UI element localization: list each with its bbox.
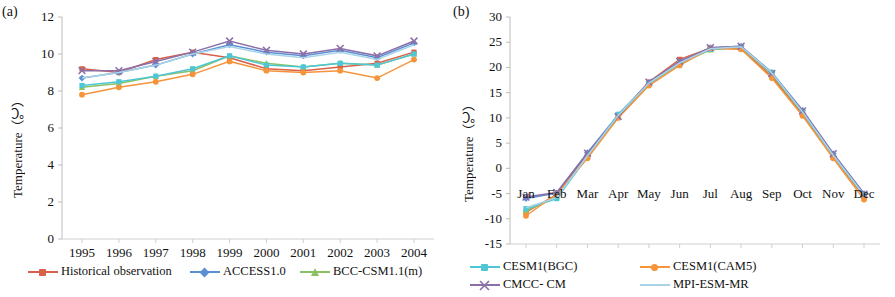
legend-swatch-triangle-icon [300, 266, 330, 278]
x-axis-tick-label: Oct [793, 186, 812, 202]
chart-panel-a: (a) Temperature（℃） 024681012199519961997… [0, 0, 447, 297]
chart-svg [62, 17, 434, 239]
legend-label: CESM1(CAM5) [673, 259, 756, 274]
y-axis-tick-label: 12 [41, 9, 54, 25]
y-axis-tick-label: 0 [48, 231, 55, 247]
series-mpi-esm-mr [82, 45, 414, 78]
x-axis-tick-label: 2003 [364, 245, 390, 261]
series-mpi-esm-mr [526, 47, 864, 208]
panel-a-label: (a) [2, 4, 18, 20]
data-point-square [153, 74, 158, 79]
y-axis-tick-label: 20 [489, 59, 502, 75]
x-axis-tick-label: 2000 [253, 245, 279, 261]
panel-a-y-axis-title: Temperature（℃） [8, 48, 27, 198]
panel-b-label: (b) [453, 4, 469, 20]
y-axis-tick-label: 5 [496, 135, 503, 151]
legend-label: CESM1(BGC) [503, 259, 577, 274]
legend-label: Historical observation [61, 264, 172, 279]
data-point-circle [523, 213, 529, 219]
x-axis-tick-label: Jan [517, 186, 534, 202]
data-point-square [411, 51, 416, 56]
panel-b-y-axis-title: Temperature（℃） [459, 42, 478, 202]
x-axis-tick-label: 2001 [290, 245, 316, 261]
x-axis-tick-label: Nov [822, 186, 844, 202]
y-axis-tick-label: -15 [485, 236, 502, 252]
legend-item[interactable]: CESM1(BGC) [470, 259, 577, 274]
x-axis-tick-label: 1996 [106, 245, 132, 261]
legend-swatch-none-icon [640, 279, 670, 291]
series-line [82, 45, 414, 78]
y-axis-tick-label: 25 [489, 34, 502, 50]
y-axis-tick-label: -10 [485, 211, 502, 227]
y-axis-tick-label: 4 [48, 157, 55, 173]
legend-swatch-x-icon [470, 279, 500, 291]
legend-item[interactable]: ACCESS1.0 [190, 264, 286, 279]
x-axis-tick-label: Apr [608, 186, 628, 202]
x-axis-tick-label: Jul [703, 186, 718, 202]
data-point-circle [264, 68, 270, 74]
data-point-square [375, 63, 380, 68]
data-point-circle [190, 71, 196, 77]
data-point-square [227, 53, 232, 58]
data-point-square [116, 79, 121, 84]
legend-item[interactable]: Historical observation [28, 264, 172, 279]
legend-item[interactable]: CESM1(CAM5) [640, 259, 756, 274]
x-axis-tick-label: Jun [671, 186, 689, 202]
panel-a-plot-area: 0246810121995199619971998199920002001200… [62, 17, 434, 239]
chart-panel-b: (b) Temperature（℃） -15-10-5051015202530J… [447, 0, 895, 297]
legend-swatch-circle-icon [640, 261, 670, 273]
y-axis-tick-label: 6 [48, 120, 55, 136]
data-point-square [79, 83, 84, 88]
data-point-circle [300, 70, 306, 76]
legend-item[interactable]: BCC-CSM1.1(m) [300, 264, 422, 279]
x-axis-tick-label: 2002 [327, 245, 353, 261]
legend-item[interactable]: CMCC- CM [470, 277, 566, 292]
legend-item[interactable]: MPI-ESM-MR [640, 277, 749, 292]
data-point-circle [337, 68, 343, 74]
data-point-circle [374, 75, 380, 81]
legend-label: ACCESS1.0 [223, 264, 286, 279]
legend-swatch-square-icon [470, 261, 500, 273]
x-axis-tick-label: 1995 [69, 245, 95, 261]
y-axis-tick-label: 15 [489, 85, 502, 101]
series-access1-0 [523, 43, 868, 202]
figure-root: (a) Temperature（℃） 024681012199519961997… [0, 0, 895, 297]
data-point-square [301, 64, 306, 69]
series-line [526, 46, 864, 198]
series-line [526, 46, 864, 197]
x-axis-tick-label: Aug [730, 186, 752, 202]
x-axis-tick-label: May [637, 186, 661, 202]
y-axis-tick-label: 2 [48, 194, 55, 210]
legend-label: CMCC- CM [503, 277, 566, 292]
series-cmcc-cm [523, 43, 868, 201]
chart-svg [510, 17, 880, 244]
y-axis-tick-label: 10 [41, 46, 54, 62]
legend-swatch-diamond-icon [190, 266, 220, 278]
y-axis-tick-label: -5 [491, 186, 502, 202]
y-axis-tick-label: 10 [489, 110, 502, 126]
legend-label: MPI-ESM-MR [673, 277, 749, 292]
x-axis-tick-label: Dec [854, 186, 875, 202]
y-axis-tick-label: 30 [489, 9, 502, 25]
legend-swatch-square-icon [28, 266, 58, 278]
y-axis-tick-label: 8 [48, 83, 55, 99]
panel-b-plot-area: -15-10-5051015202530JanFebMarAprMayJunJu… [510, 17, 880, 244]
data-point-square [338, 61, 343, 66]
x-axis-tick-label: Mar [577, 186, 599, 202]
series-line [526, 47, 864, 208]
data-point-circle [153, 79, 159, 85]
data-point-circle [227, 59, 233, 65]
x-axis-tick-label: 1998 [180, 245, 206, 261]
data-point-circle [79, 92, 85, 98]
x-axis-tick-label: Sep [762, 186, 782, 202]
data-point-circle [411, 57, 417, 63]
x-axis-tick-label: Feb [547, 186, 567, 202]
data-point-square [190, 66, 195, 71]
x-axis-tick-label: 1999 [217, 245, 243, 261]
x-axis-tick-label: 2004 [401, 245, 427, 261]
legend-label: BCC-CSM1.1(m) [333, 264, 422, 279]
y-axis-tick-label: 0 [496, 160, 503, 176]
x-axis-tick-label: 1997 [143, 245, 169, 261]
data-point-circle [116, 84, 122, 90]
data-point-square [264, 63, 269, 68]
